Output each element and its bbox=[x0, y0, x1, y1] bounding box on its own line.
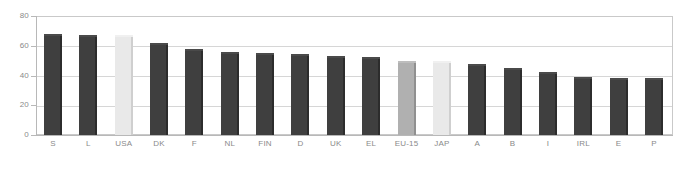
bar-cap bbox=[221, 52, 239, 54]
y-tick-label: 60 bbox=[3, 42, 29, 50]
y-tick-label: 40 bbox=[3, 72, 29, 80]
y-tick-label-wrap: 20 bbox=[0, 101, 29, 109]
bar-eu-15[interactable] bbox=[398, 61, 416, 135]
bar-body bbox=[504, 68, 520, 135]
bar-edge bbox=[307, 54, 309, 135]
x-axis-line bbox=[36, 135, 673, 136]
bar-cap bbox=[539, 72, 557, 74]
bar-edge bbox=[343, 56, 345, 135]
bar-l[interactable] bbox=[79, 35, 97, 135]
bar-edge bbox=[626, 78, 628, 135]
bar-edge bbox=[555, 72, 557, 135]
bar-irl[interactable] bbox=[574, 77, 592, 135]
x-tick-label-p: P bbox=[633, 139, 675, 149]
bar-cap bbox=[362, 57, 380, 59]
bar-cap bbox=[468, 64, 486, 66]
bar-a[interactable] bbox=[468, 64, 486, 135]
bar-body bbox=[539, 72, 555, 135]
bar-el[interactable] bbox=[362, 57, 380, 135]
bar-edge bbox=[60, 34, 62, 135]
bar-cap bbox=[185, 49, 203, 51]
bar-body bbox=[44, 34, 60, 135]
bar-edge bbox=[449, 61, 451, 135]
bar-s[interactable] bbox=[44, 34, 62, 135]
bar-edge bbox=[378, 57, 380, 135]
bar-body bbox=[327, 56, 343, 135]
bar-i[interactable] bbox=[539, 72, 557, 135]
bar-cap bbox=[327, 56, 345, 58]
bar-body bbox=[574, 77, 590, 135]
bar-nl[interactable] bbox=[221, 52, 239, 135]
bar-body bbox=[291, 54, 307, 135]
bar-jap[interactable] bbox=[433, 61, 451, 135]
bar-edge bbox=[95, 35, 97, 135]
bar-cap bbox=[645, 78, 663, 80]
bar-edge bbox=[661, 78, 663, 135]
bar-b[interactable] bbox=[504, 68, 522, 135]
bar-chart: 020406080 SLUSADKFNLFINDUKELEU-15JAPABII… bbox=[0, 0, 691, 170]
bar-body bbox=[362, 57, 378, 135]
bar-cap bbox=[79, 35, 97, 37]
y-tick-label-wrap: 40 bbox=[0, 72, 29, 80]
y-tick-label: 0 bbox=[3, 131, 29, 139]
bar-dk[interactable] bbox=[150, 43, 168, 135]
bar-body bbox=[256, 53, 272, 135]
bar-body bbox=[185, 49, 201, 135]
y-tick-label-wrap: 80 bbox=[0, 12, 29, 20]
bar-cap bbox=[291, 54, 309, 56]
bar-f[interactable] bbox=[185, 49, 203, 135]
bar-fin[interactable] bbox=[256, 53, 274, 135]
bar-edge bbox=[414, 61, 416, 135]
bar-body bbox=[468, 64, 484, 135]
bar-edge bbox=[131, 35, 133, 135]
bar-edge bbox=[272, 53, 274, 135]
bar-edge bbox=[484, 64, 486, 135]
bar-cap bbox=[433, 61, 451, 63]
bar-body bbox=[398, 61, 414, 135]
bar-p[interactable] bbox=[645, 78, 663, 135]
bar-edge bbox=[520, 68, 522, 135]
bar-cap bbox=[610, 78, 628, 80]
bar-usa[interactable] bbox=[115, 35, 133, 135]
y-tick-label: 20 bbox=[3, 101, 29, 109]
bar-body bbox=[645, 78, 661, 135]
bar-series bbox=[36, 16, 673, 135]
bar-d[interactable] bbox=[291, 54, 309, 135]
y-tick-label: 80 bbox=[3, 12, 29, 20]
bar-cap bbox=[44, 34, 62, 36]
bar-cap bbox=[504, 68, 522, 70]
bar-e[interactable] bbox=[610, 78, 628, 135]
bar-cap bbox=[256, 53, 274, 55]
bar-cap bbox=[574, 77, 592, 79]
bar-uk[interactable] bbox=[327, 56, 345, 135]
bar-body bbox=[610, 78, 626, 135]
bar-edge bbox=[166, 43, 168, 135]
bar-body bbox=[115, 35, 131, 135]
bar-cap bbox=[398, 61, 416, 63]
bar-cap bbox=[150, 43, 168, 45]
bar-edge bbox=[590, 77, 592, 135]
bar-body bbox=[221, 52, 237, 135]
bar-edge bbox=[201, 49, 203, 135]
bar-body bbox=[433, 61, 449, 135]
y-tick-label-wrap: 0 bbox=[0, 131, 29, 139]
y-tick-label-wrap: 60 bbox=[0, 42, 29, 50]
bar-cap bbox=[115, 35, 133, 37]
bar-body bbox=[79, 35, 95, 135]
bar-body bbox=[150, 43, 166, 135]
bar-edge bbox=[237, 52, 239, 135]
x-axis-labels: SLUSADKFNLFINDUKELEU-15JAPABIIRLEP bbox=[36, 139, 673, 155]
